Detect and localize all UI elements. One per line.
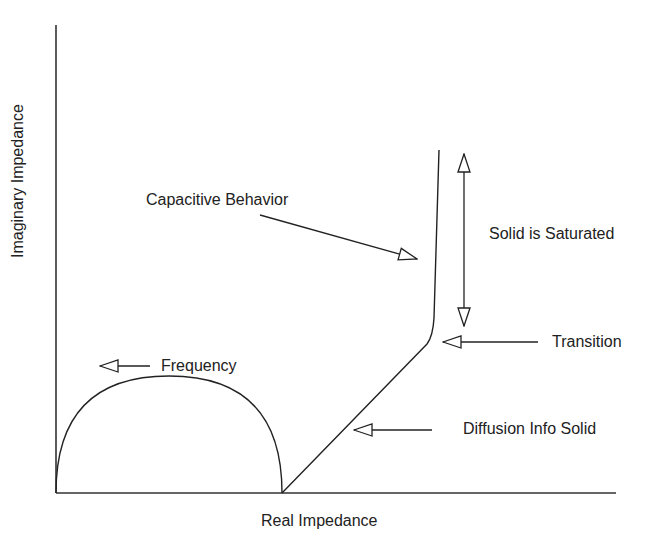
diffusion-label: Diffusion Info Solid: [463, 421, 596, 437]
y-axis-label: Imaginary Impedance: [9, 104, 27, 258]
frequency-label: Frequency: [161, 358, 237, 374]
solid-saturated-label: Solid is Saturated: [489, 226, 614, 242]
x-axis-label: Real Impedance: [261, 513, 378, 529]
impedance-diagram: [0, 0, 667, 555]
capacitive-behavior-label: Capacitive Behavior: [146, 192, 288, 208]
semicircle-curve: [56, 376, 282, 493]
transition-label: Transition: [552, 334, 622, 350]
warburg-capacitive-curve: [282, 150, 439, 493]
capacitive-arrow: [260, 215, 417, 259]
